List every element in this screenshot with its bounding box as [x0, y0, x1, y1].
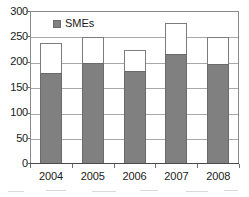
y-tick-label: 200	[2, 56, 28, 67]
scan-artifact	[92, 191, 116, 192]
y-tick-label: 50	[2, 133, 28, 144]
y-tick-label: 100	[2, 107, 28, 118]
x-tick-mark	[30, 164, 31, 168]
bar-stack	[165, 23, 187, 164]
bar-segment-smes[interactable]	[40, 73, 62, 164]
bar-stack	[40, 43, 62, 164]
y-tick-label: 150	[2, 82, 28, 93]
x-tick-label-2004: 2004	[30, 170, 72, 182]
x-tick-mark	[155, 164, 156, 168]
bar-segment-smes[interactable]	[165, 54, 187, 164]
bar-stack	[82, 37, 104, 165]
bar-segment-other[interactable]	[40, 43, 62, 73]
bar-segment-other[interactable]	[207, 37, 229, 65]
bar-segment-other[interactable]	[124, 50, 146, 71]
bar-group-2007[interactable]	[155, 11, 197, 164]
x-tick-mark	[72, 164, 73, 168]
x-tick-label-2006: 2006	[114, 170, 156, 182]
y-axis: 300 250 200 150 100 50 0	[0, 0, 28, 197]
y-tick-label: 250	[2, 31, 28, 42]
bar-segment-smes[interactable]	[82, 63, 104, 164]
x-tick-label-2007: 2007	[155, 170, 197, 182]
x-tick-label-2005: 2005	[72, 170, 114, 182]
x-tick-label-2008: 2008	[197, 170, 239, 182]
bar-stack	[124, 50, 146, 164]
bar-chart: 300 250 200 150 100 50 0	[0, 0, 249, 197]
legend-label-smes: SMEs	[65, 18, 94, 29]
legend-swatch-smes-icon	[53, 20, 61, 28]
bar-stack	[207, 37, 229, 165]
bars-layer	[30, 11, 239, 164]
scan-artifact	[8, 191, 24, 192]
bar-segment-smes[interactable]	[207, 64, 229, 164]
y-tick-label: 0	[2, 158, 28, 169]
bar-group-2008[interactable]	[197, 11, 239, 164]
x-tick-mark	[197, 164, 198, 168]
bar-group-2004[interactable]	[30, 11, 72, 164]
bar-segment-smes[interactable]	[124, 71, 146, 164]
x-axis-line	[30, 163, 239, 164]
scan-artifact	[224, 190, 238, 191]
bar-segment-other[interactable]	[82, 37, 104, 64]
legend: SMEs	[52, 17, 97, 30]
x-tick-mark	[114, 164, 115, 168]
bar-segment-other[interactable]	[165, 23, 187, 54]
bar-group-2006[interactable]	[114, 11, 156, 164]
x-tick-mark	[239, 164, 240, 168]
scan-artifacts	[0, 188, 249, 197]
scan-artifact	[46, 190, 66, 191]
y-tick-label: 300	[2, 6, 28, 17]
scan-artifact	[140, 190, 158, 191]
bar-group-2005[interactable]	[72, 11, 114, 164]
scan-artifact	[186, 191, 208, 192]
